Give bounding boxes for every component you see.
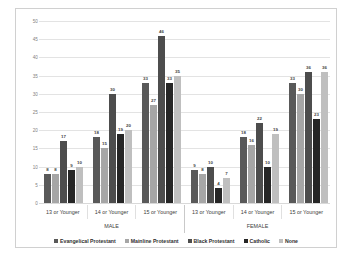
y-axis-tick: 15 — [20, 146, 38, 151]
bar[interactable]: 10 — [264, 167, 271, 203]
y-axis-tick: 40 — [20, 55, 38, 60]
bar[interactable]: 8 — [199, 174, 206, 203]
bar[interactable]: 36 — [305, 72, 312, 203]
legend-label: None — [285, 238, 298, 244]
bar-value-label: 10 — [265, 160, 270, 165]
y-axis: 05101520253035404550 — [20, 21, 38, 203]
category-label: 13 or Younger — [39, 205, 88, 219]
bar[interactable]: 18 — [93, 137, 100, 203]
category-axis: 13 or Younger14 or Younger15 or Younger1… — [39, 205, 330, 219]
bar-value-label: 15 — [102, 141, 107, 146]
bar[interactable]: 9 — [68, 170, 75, 203]
y-axis-tick: 35 — [20, 73, 38, 78]
bar[interactable]: 33 — [142, 83, 149, 203]
bar-value-label: 16 — [249, 138, 254, 143]
bar-group: 1815301920 — [88, 21, 137, 203]
category-label: 15 or Younger — [282, 205, 330, 219]
bar[interactable]: 10 — [207, 167, 214, 203]
category-label: 15 or Younger — [136, 205, 185, 219]
legend-swatch-icon — [188, 239, 192, 243]
bar-value-label: 20 — [126, 123, 131, 128]
bar[interactable]: 8 — [52, 174, 59, 203]
bar-value-label: 23 — [314, 112, 319, 117]
bar-group: 981047 — [186, 21, 235, 203]
bar[interactable]: 15 — [101, 148, 108, 203]
bar-value-label: 30 — [298, 87, 303, 92]
legend-item[interactable]: Black Protestant — [188, 238, 235, 244]
category-label: 14 or Younger — [88, 205, 137, 219]
gridline — [39, 203, 330, 204]
legend-label: Evangelical Protestant — [60, 238, 116, 244]
bar-value-label: 22 — [257, 116, 262, 121]
bar[interactable]: 18 — [240, 137, 247, 203]
bar-value-label: 30 — [110, 87, 115, 92]
supercategory-axis: MALEFEMALE — [39, 219, 330, 233]
bar-value-label: 33 — [143, 76, 148, 81]
bar-value-label: 7 — [225, 171, 227, 176]
bar[interactable]: 30 — [297, 94, 304, 203]
bar[interactable]: 9 — [191, 170, 198, 203]
bar-value-label: 18 — [94, 130, 99, 135]
bar[interactable]: 33 — [166, 83, 173, 203]
bar-value-label: 36 — [306, 65, 311, 70]
bar-value-label: 8 — [54, 167, 56, 172]
bar[interactable]: 16 — [248, 145, 255, 203]
bar-group: 1816221019 — [235, 21, 284, 203]
bar-value-label: 33 — [167, 76, 172, 81]
bar[interactable]: 7 — [223, 178, 230, 203]
bar-value-label: 9 — [70, 163, 72, 168]
legend-swatch-icon — [54, 239, 58, 243]
y-axis-tick: 5 — [20, 182, 38, 187]
bar-value-label: 4 — [217, 181, 219, 186]
bar[interactable]: 8 — [44, 174, 51, 203]
legend-item[interactable]: Catholic — [244, 238, 270, 244]
bar-value-label: 27 — [151, 98, 156, 103]
y-axis-tick: 10 — [20, 164, 38, 169]
bar[interactable]: 33 — [289, 83, 296, 203]
bar[interactable]: 30 — [109, 94, 116, 203]
bar-value-label: 19 — [118, 127, 123, 132]
bar[interactable]: 46 — [158, 36, 165, 203]
legend-swatch-icon — [244, 239, 248, 243]
bars-plot-area: 8817910181530192033274633359810471816221… — [39, 21, 330, 203]
bar-value-label: 18 — [241, 130, 246, 135]
category-label: 14 or Younger — [234, 205, 283, 219]
bar-value-label: 19 — [273, 127, 278, 132]
bar[interactable]: 23 — [313, 119, 320, 203]
bar[interactable]: 36 — [321, 72, 328, 203]
chart-legend: Evangelical ProtestantMainline Protestan… — [16, 235, 336, 247]
bar[interactable]: 20 — [125, 130, 132, 203]
chart-container: 05101520253035404550 8817910181530192033… — [15, 8, 337, 248]
bar-group: 3330362336 — [284, 21, 333, 203]
bar[interactable]: 19 — [117, 134, 124, 203]
y-axis-tick: 30 — [20, 91, 38, 96]
bar-value-label: 17 — [61, 134, 66, 139]
bar-value-label: 35 — [175, 69, 180, 74]
bar[interactable]: 19 — [272, 134, 279, 203]
bar[interactable]: 35 — [174, 76, 181, 203]
bar[interactable]: 4 — [215, 188, 222, 203]
legend-label: Black Protestant — [194, 238, 235, 244]
bar-value-label: 33 — [290, 76, 295, 81]
y-axis-tick: 45 — [20, 37, 38, 42]
legend-swatch-icon — [279, 239, 283, 243]
bar[interactable]: 27 — [150, 105, 157, 203]
y-axis-tick: 0 — [20, 201, 38, 206]
supercategory-label: FEMALE — [185, 219, 330, 233]
category-label: 13 or Younger — [185, 205, 234, 219]
y-axis-tick: 25 — [20, 110, 38, 115]
bar-value-label: 8 — [201, 167, 203, 172]
legend-item[interactable]: Evangelical Protestant — [54, 238, 116, 244]
legend-item[interactable]: Mainline Protestant — [125, 238, 179, 244]
bar-value-label: 9 — [193, 163, 195, 168]
legend-label: Mainline Protestant — [131, 238, 179, 244]
bar-value-label: 10 — [208, 160, 213, 165]
legend-label: Catholic — [250, 238, 270, 244]
bar-value-label: 8 — [46, 167, 48, 172]
bar[interactable]: 10 — [76, 167, 83, 203]
supercategory-label: MALE — [39, 219, 185, 233]
bar[interactable]: 22 — [256, 123, 263, 203]
plot-wrapper: 05101520253035404550 8817910181530192033… — [16, 9, 336, 247]
legend-item[interactable]: None — [279, 238, 298, 244]
bar[interactable]: 17 — [60, 141, 67, 203]
